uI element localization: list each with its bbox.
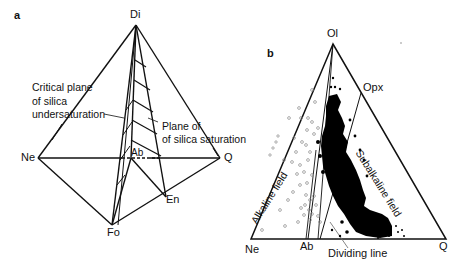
panel-b-label: b	[267, 48, 274, 59]
vertex-di-label: Di	[130, 9, 140, 20]
critical-plane-label-1: Critical plane	[32, 82, 93, 93]
panel-a-label: a	[14, 10, 20, 21]
vertex-ne-label-a: Ne	[21, 152, 35, 163]
saturation-plane-label-2: of silica saturation	[162, 134, 246, 145]
edge-ne-fo	[38, 158, 112, 225]
critical-plane-label-2: of silica	[32, 96, 67, 107]
critical-plane-pointer-tail	[52, 124, 62, 140]
vertex-ab-label-b: Ab	[300, 241, 313, 252]
vertex-q-label-b: Q	[439, 241, 448, 252]
vertex-ne-label-b: Ne	[245, 244, 259, 255]
stray-speck	[400, 42, 402, 44]
vertex-en-label: En	[166, 194, 179, 205]
q-tick	[213, 148, 218, 156]
subalkaline-dense-cluster	[321, 94, 392, 238]
critical-plane-inner	[118, 25, 136, 225]
vertex-q-label-a: Q	[224, 152, 233, 163]
saturation-plane-label-1: Plane of	[162, 121, 201, 132]
dividing-line-pointer	[330, 222, 348, 248]
critical-plane-label-3: undersaturation	[32, 109, 105, 120]
alkaline-samples	[261, 89, 322, 232]
dividing-line-label: Dividing line	[328, 248, 387, 259]
vertex-fo-label: Fo	[107, 227, 120, 238]
vertex-ol-label: Ol	[327, 28, 338, 39]
vertex-ab-label-a: Ab	[131, 147, 143, 158]
vertex-opx-label: Opx	[363, 82, 383, 93]
critical-plane-pointer	[104, 114, 124, 118]
